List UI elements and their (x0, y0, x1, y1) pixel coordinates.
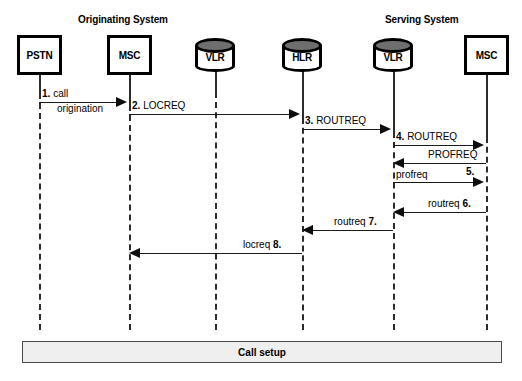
message-arrow-profreq-head (473, 177, 484, 187)
lifeline-stub-msc-serving (486, 75, 488, 137)
actor-vlr-originating-label: VLR (195, 52, 235, 63)
message-text-8: locreq (243, 239, 270, 250)
message-arrow-7-line (313, 230, 393, 231)
message-arrow-5-head (393, 158, 404, 168)
database-cylinder-top-icon (195, 38, 235, 53)
message-number-7: 7. (368, 216, 376, 227)
message-text-2: LOCREQ (143, 100, 185, 111)
message-arrow-6-line (404, 212, 486, 213)
lifeline-pstn (39, 93, 41, 330)
message-label-1-line2: origination (57, 103, 103, 114)
message-number-5: 5. (466, 166, 474, 177)
lifeline-stub-pstn (39, 75, 41, 93)
message-text-6: routreq (428, 198, 460, 209)
message-number-6: 6. (462, 198, 470, 209)
database-cylinder-top-icon (282, 38, 322, 53)
message-number-3: 3. (305, 115, 313, 126)
actor-hlr[interactable]: HLR (282, 38, 322, 74)
message-number-2: 2. (132, 100, 140, 111)
message-text-5: PROFREQ (428, 149, 477, 160)
lifeline-vlr-originating (215, 92, 217, 330)
lifeline-msc-serving (486, 137, 488, 330)
message-arrow-6-head (393, 207, 404, 217)
actor-vlr-serving[interactable]: VLR (373, 38, 413, 74)
message-arrow-2-head (289, 109, 300, 119)
message-arrow-3-line (302, 129, 382, 130)
actor-msc-originating[interactable]: MSC (107, 35, 152, 75)
message-text-3: ROUTREQ (316, 115, 366, 126)
actor-vlr-originating[interactable]: VLR (195, 38, 235, 74)
message-arrow-5-line (404, 163, 486, 164)
message-text-1: call (53, 88, 68, 99)
call-setup-bar: Call setup (22, 341, 502, 363)
message-arrow-2-line (129, 114, 291, 115)
message-label-7: routreq 7. (334, 216, 377, 227)
lifeline-stub-hlr (302, 70, 304, 118)
message-label-2: 2. LOCREQ (132, 100, 185, 111)
message-number-8: 8. (273, 239, 281, 250)
message-arrow-4-line (393, 145, 475, 146)
group-label-originating-system: Originating System (78, 14, 168, 25)
group-label-serving-system: Serving System (385, 14, 459, 25)
message-text-profreq: profreq (396, 169, 428, 180)
message-text-7: routreq (334, 216, 366, 227)
lifeline-stub-msc-originating (129, 75, 131, 105)
actor-msc-originating-label: MSC (119, 50, 141, 61)
sequence-diagram-canvas: Originating System Serving System PSTN M… (0, 0, 522, 381)
actor-msc-serving[interactable]: MSC (464, 35, 509, 75)
call-setup-label: Call setup (238, 347, 286, 358)
lifeline-stub-vlr-serving (393, 70, 395, 132)
message-arrow-7-head (302, 225, 313, 235)
message-arrow-8-line (140, 253, 302, 254)
message-arrow-1-head (116, 97, 127, 107)
actor-msc-serving-label: MSC (476, 50, 498, 61)
message-text-4: ROUTREQ (407, 131, 457, 142)
message-arrow-8-head (129, 248, 140, 258)
actor-vlr-serving-label: VLR (373, 52, 413, 63)
lifeline-hlr (302, 118, 304, 330)
message-label-6: routreq 6. (428, 198, 471, 209)
lifeline-msc-originating (129, 105, 131, 330)
message-label-3: 3. ROUTREQ (305, 115, 366, 126)
message-number-4: 4. (396, 131, 404, 142)
database-cylinder-top-icon (373, 38, 413, 53)
actor-pstn-label: PSTN (27, 50, 53, 61)
actor-pstn[interactable]: PSTN (17, 35, 62, 75)
message-label-1-line1: 1. call (42, 88, 68, 99)
message-label-4: 4. ROUTREQ (396, 131, 457, 142)
message-arrow-profreq-line (393, 182, 475, 183)
message-label-8: locreq 8. (243, 239, 281, 250)
message-number-1: 1. (42, 88, 50, 99)
actor-hlr-label: HLR (282, 52, 322, 63)
message-arrow-3-head (380, 124, 391, 134)
